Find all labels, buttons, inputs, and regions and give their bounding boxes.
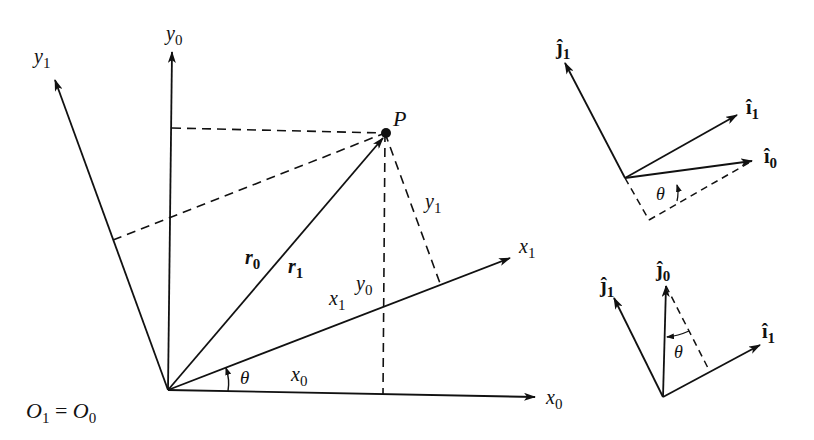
label-proj-y1: y1	[423, 190, 441, 216]
proj-x0	[383, 133, 385, 395]
label-proj-x0: x0	[290, 363, 307, 389]
j1-vector-top	[565, 63, 625, 178]
x1-axis	[168, 258, 510, 390]
label-j0-bottom: ĵ0	[655, 258, 670, 284]
label-i0-top: î0	[763, 145, 777, 171]
proj-y1	[113, 133, 385, 240]
label-i1-bottom: î1	[761, 320, 775, 346]
i0-vector-top	[625, 161, 752, 178]
j0-vector-bottom	[663, 286, 666, 397]
x0-axis	[168, 390, 535, 397]
label-x0-axis: x0	[545, 386, 562, 412]
label-r1: r1	[288, 255, 303, 281]
y1-axis	[55, 80, 168, 390]
label-origin: O1 = O0	[26, 398, 96, 426]
label-i1-top: î1	[745, 96, 759, 122]
rotation-frames-figure: y1 y0 x1 x0 P r0 r1 y1 y0 x1 x0 θ O1 = O…	[0, 0, 814, 440]
point-p	[381, 128, 391, 138]
label-proj-y0: y0	[354, 272, 372, 298]
label-j1-bottom: ĵ1	[599, 274, 614, 300]
theta-arc-top	[677, 185, 678, 201]
label-j1-top: ĵ1	[555, 36, 570, 62]
label-theta-top: θ	[656, 184, 665, 204]
label-theta-main: θ	[240, 367, 249, 388]
label-y1-axis: y1	[32, 45, 50, 71]
label-y0-axis: y0	[164, 22, 182, 48]
label-proj-x1: x1	[328, 287, 345, 313]
bottom-right-diagram	[614, 286, 760, 397]
main-diagram	[55, 52, 535, 397]
label-point-p: P	[392, 106, 406, 131]
theta-arc-bottom	[667, 331, 689, 337]
proj-j0-on-i1	[666, 286, 709, 370]
proj-i0-on-j1	[625, 178, 649, 220]
y0-axis	[168, 52, 172, 390]
j1-vector-bottom	[614, 298, 663, 397]
label-x1-axis: x1	[518, 235, 535, 261]
label-theta-bottom: θ	[674, 342, 683, 362]
proj-y0	[172, 128, 385, 133]
label-r0: r0	[245, 246, 260, 272]
theta-arc	[226, 368, 229, 391]
i1-vector-top	[625, 115, 737, 178]
position-vector-r	[168, 138, 383, 390]
figure-svg: y1 y0 x1 x0 P r0 r1 y1 y0 x1 x0 θ O1 = O…	[0, 0, 814, 440]
